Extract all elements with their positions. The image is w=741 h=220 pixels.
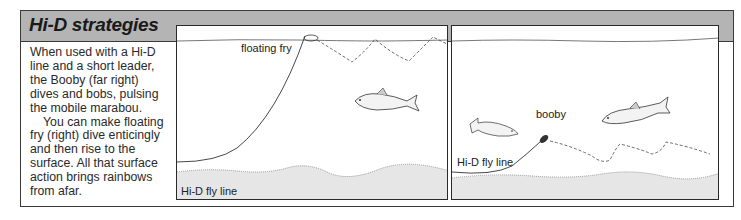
trout-icon — [470, 118, 518, 136]
trout-icon — [355, 88, 419, 111]
paragraph-2: You can make floating fry (right) dive e… — [30, 116, 170, 199]
fly-line-label: Hi-D fly line — [181, 185, 237, 197]
booby-label: booby — [536, 108, 566, 120]
paragraph-1: When used with a Hi-D line and a short l… — [30, 46, 170, 116]
booby-illustration: booby Hi-D fly line — [451, 25, 719, 200]
floating-fry-label: floating fry — [241, 42, 292, 54]
floating-fry-drawing — [177, 26, 448, 200]
booby-fly-icon — [538, 133, 550, 144]
fly-line-label: Hi-D fly line — [457, 156, 513, 168]
sidebar-body: When used with a Hi-D line and a short l… — [30, 46, 170, 199]
booby-drawing — [452, 26, 719, 200]
floating-fry-illustration: floating fry Hi-D fly line — [176, 25, 448, 200]
trout-icon — [602, 97, 670, 124]
sidebar-title: Hi-D strategies — [29, 14, 159, 36]
